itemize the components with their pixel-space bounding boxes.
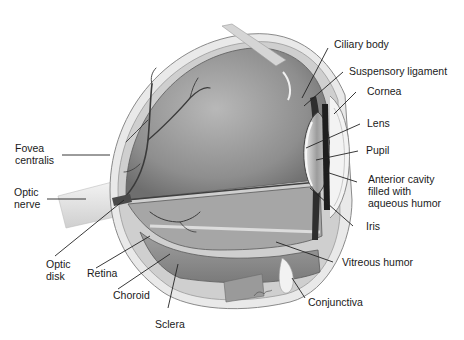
label-anterior-cavity: Anterior cavity filled with aqueous humo… bbox=[368, 173, 441, 209]
label-cornea: Cornea bbox=[367, 85, 401, 97]
label-pupil: Pupil bbox=[366, 144, 389, 156]
label-ciliary-body: Ciliary body bbox=[334, 38, 389, 50]
label-retina: Retina bbox=[87, 267, 117, 279]
label-optic-disk-line1: Optic bbox=[46, 258, 71, 270]
label-optic-nerve-line1: Optic bbox=[14, 186, 40, 198]
label-suspensory-ligament: Suspensory ligament bbox=[349, 65, 447, 77]
label-anterior-cavity-line3: aqueous humor bbox=[368, 197, 441, 209]
label-anterior-cavity-line2: filled with bbox=[368, 185, 441, 197]
label-lens: Lens bbox=[367, 117, 390, 129]
label-fovea-centralis-line1: Fovea bbox=[15, 142, 54, 154]
label-choroid: Choroid bbox=[113, 289, 150, 301]
label-sclera: Sclera bbox=[155, 318, 185, 330]
label-optic-disk-line2: disk bbox=[46, 270, 71, 282]
label-optic-disk: Optic disk bbox=[46, 258, 71, 282]
eye-anatomy-illustration bbox=[0, 0, 464, 340]
label-anterior-cavity-line1: Anterior cavity bbox=[368, 173, 441, 185]
label-conjunctiva: Conjunctiva bbox=[308, 296, 363, 308]
label-vitreous-humor: Vitreous humor bbox=[342, 256, 413, 268]
label-optic-nerve: Optic nerve bbox=[14, 186, 40, 210]
label-iris: Iris bbox=[366, 220, 380, 232]
label-optic-nerve-line2: nerve bbox=[14, 198, 40, 210]
label-fovea-centralis-line2: centralis bbox=[15, 154, 54, 166]
label-fovea-centralis: Fovea centralis bbox=[15, 142, 54, 166]
